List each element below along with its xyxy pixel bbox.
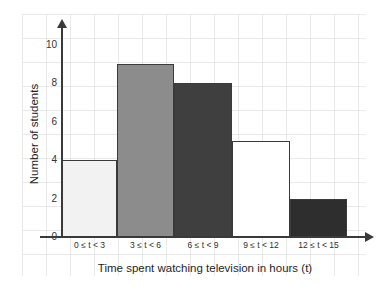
histogram-chart: 0246810 0 ≤ t < 33 ≤ t < 66 ≤ t < 99 ≤ t… <box>0 0 391 289</box>
x-axis-title: Time spent watching television in hours … <box>40 262 370 274</box>
bar <box>174 83 232 237</box>
x-category-label: 9 ≤ t < 12 <box>232 240 290 250</box>
bar <box>117 64 174 237</box>
y-tick-label: 2 <box>37 193 57 204</box>
y-tick-label: 10 <box>37 39 57 50</box>
bar <box>62 160 117 237</box>
x-category-label: 12 ≤ t < 15 <box>290 240 347 250</box>
bar <box>232 141 290 237</box>
y-axis-title: Number of students <box>28 64 40 204</box>
y-tick-label: 8 <box>37 77 57 88</box>
x-axis-arrow-icon <box>365 232 374 242</box>
bar <box>290 199 347 238</box>
y-axis-line <box>61 26 63 238</box>
y-tick-label: 6 <box>37 116 57 127</box>
x-category-label: 3 ≤ t < 6 <box>117 240 174 250</box>
x-category-label: 0 ≤ t < 3 <box>62 240 117 250</box>
x-axis-line <box>40 236 366 238</box>
y-tick-label: 4 <box>37 154 57 165</box>
plot-area: 0246810 0 ≤ t < 33 ≤ t < 66 ≤ t < 99 ≤ t… <box>0 0 391 289</box>
x-category-label: 6 ≤ t < 9 <box>174 240 232 250</box>
y-axis-arrow-icon <box>57 19 67 28</box>
